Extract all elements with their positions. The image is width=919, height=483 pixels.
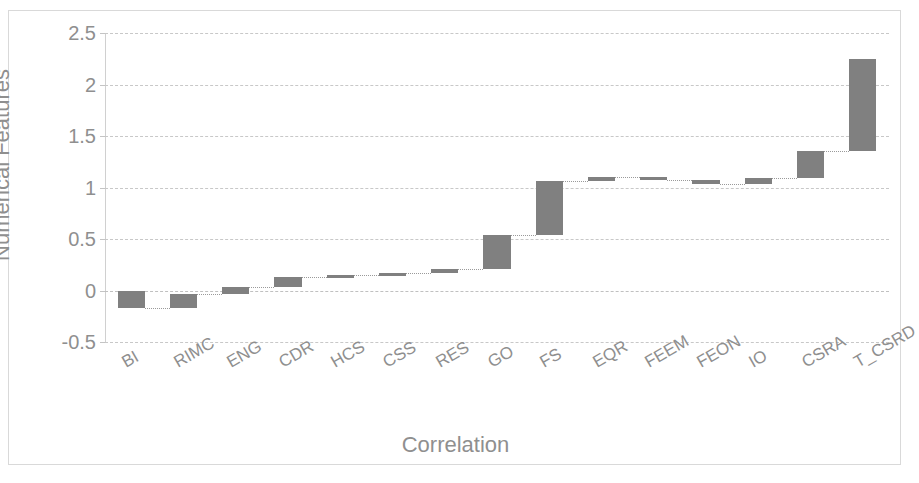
gridline — [105, 188, 889, 189]
connector-line — [197, 294, 222, 295]
y-axis-tick-label: 0.5 — [68, 229, 96, 249]
connector-line — [615, 177, 640, 178]
connector-line — [563, 181, 588, 182]
connector-line — [824, 151, 849, 152]
y-axis-tick-label: 1 — [85, 178, 96, 198]
connector-line — [720, 184, 745, 185]
y-axis-tick-label: 2 — [85, 75, 96, 95]
bar — [170, 294, 197, 308]
x-axis-title: Correlation — [0, 432, 911, 458]
connector-line — [249, 287, 274, 288]
bar — [483, 235, 510, 269]
gridline — [105, 33, 889, 34]
bar — [274, 277, 301, 287]
connector-line — [406, 273, 431, 274]
y-axis-tick-label: -0.5 — [62, 332, 96, 352]
connector-line — [145, 308, 170, 309]
bar — [797, 151, 824, 178]
bar — [849, 59, 876, 152]
plot-area — [105, 33, 889, 342]
bar — [692, 180, 719, 184]
bar — [379, 273, 406, 276]
connector-line — [511, 235, 536, 236]
connector-line — [354, 275, 379, 276]
gridline — [105, 342, 889, 343]
connector-line — [458, 269, 483, 270]
bar — [222, 287, 249, 293]
bar — [118, 291, 145, 309]
bar — [640, 177, 667, 180]
bar — [327, 275, 354, 278]
bar — [536, 181, 563, 235]
y-axis-tick-label: 1.5 — [68, 126, 96, 146]
y-axis-title: Numerical Features — [0, 0, 15, 345]
connector-line — [667, 180, 692, 181]
bar — [745, 178, 772, 184]
connector-line — [302, 277, 327, 278]
y-axis-tick-label: 2.5 — [68, 23, 96, 43]
gridline — [105, 85, 889, 86]
gridline — [105, 136, 889, 137]
bar — [588, 177, 615, 181]
bar — [431, 269, 458, 273]
connector-line — [772, 178, 797, 179]
y-axis-tick-label: 0 — [85, 281, 96, 301]
